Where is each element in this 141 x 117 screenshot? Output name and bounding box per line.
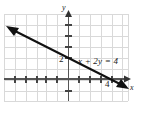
x-intercept-tick-label: 4 <box>105 80 110 89</box>
y-intercept-tick-label: 2 <box>59 55 64 64</box>
equation-label: x + 2y = 4 <box>78 57 118 66</box>
coordinate-plane-svg <box>0 0 141 117</box>
y-axis <box>65 10 72 101</box>
y-axis-label: y <box>62 4 66 12</box>
x-axis-label: x <box>130 84 134 92</box>
graph-figure: y x 2 4 x + 2y = 4 <box>0 0 141 117</box>
